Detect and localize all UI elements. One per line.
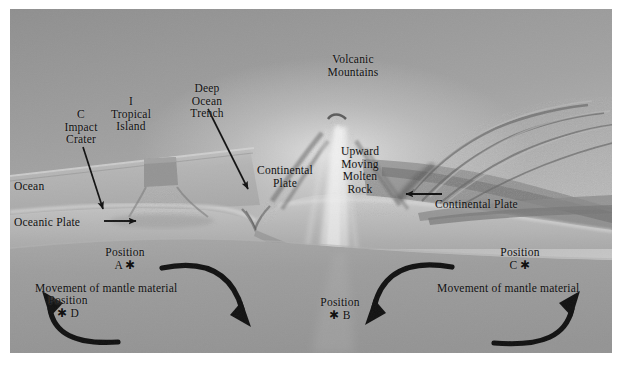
position-b-marker: ✱ B [310, 309, 370, 322]
diagram-stage: C Impact Crater I Tropical Island Deep O… [0, 0, 622, 368]
position-c-marker: C ✱ [490, 259, 550, 272]
label-upward-moving-molten-rock: Upward Moving Molten Rock [330, 145, 390, 195]
label-continental-plate-left: Continental Plate [250, 164, 320, 189]
label-ocean: Ocean [14, 180, 44, 193]
label-deep-ocean-trench: Deep Ocean Trench [178, 82, 236, 120]
label-movement-of-mantle-material-right: Movement of mantle material [437, 282, 579, 295]
position-b-label: Position [310, 296, 370, 309]
label-movement-of-mantle-material-left: Movement of mantle material [35, 282, 177, 295]
position-a-label: Position [95, 246, 155, 259]
position-d-label: Position [38, 294, 98, 307]
label-continental-plate-right: Continental Plate [435, 198, 518, 211]
position-a-marker: A ✱ [95, 259, 155, 272]
label-volcanic-mountains: Volcanic Mountains [310, 53, 396, 78]
label-oceanic-plate: Oceanic Plate [14, 216, 80, 229]
position-d-marker: ✱ D [38, 307, 98, 320]
position-c-label: Position [490, 246, 550, 259]
label-tropical-island: I Tropical Island [98, 95, 164, 133]
